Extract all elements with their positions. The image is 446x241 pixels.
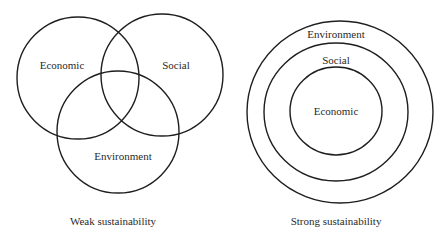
- strong-sustainability-caption: Strong sustainability: [291, 215, 382, 227]
- environment-label: Environment: [94, 150, 151, 162]
- environment-circle: [57, 71, 179, 193]
- strong-sustainability-nested: Environment Social Economic Strong susta…: [247, 21, 433, 227]
- social-label: Social: [162, 59, 190, 71]
- sustainability-diagram: Economic Social Environment Weak sustain…: [0, 0, 446, 241]
- environment-ring-label: Environment: [307, 28, 364, 40]
- social-ring-label: Social: [322, 54, 350, 66]
- weak-sustainability-venn: Economic Social Environment Weak sustain…: [17, 14, 223, 227]
- economic-ring-label: Economic: [314, 105, 359, 117]
- weak-sustainability-caption: Weak sustainability: [70, 215, 157, 227]
- economic-label: Economic: [40, 59, 85, 71]
- social-circle: [101, 14, 223, 136]
